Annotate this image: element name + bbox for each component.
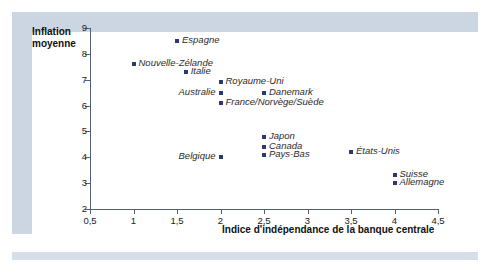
data-point [184, 70, 188, 74]
x-axis-tick [221, 209, 222, 214]
data-point-label: États-Unis [356, 145, 400, 156]
data-point [262, 135, 266, 139]
x-axis-tick [134, 209, 135, 214]
data-point-label: Pays-Bas [269, 148, 310, 159]
data-point [219, 155, 223, 159]
data-point [262, 153, 266, 157]
figure-bottom-bar [12, 252, 478, 260]
data-point-label: France/Norvège/Suède [226, 96, 324, 107]
y-axis-tick-label: 4 [47, 151, 87, 162]
y-axis-tick-label: 9 [47, 22, 87, 33]
data-point-label: Belgique [179, 150, 216, 161]
x-axis-tick-label: 3,5 [331, 215, 371, 226]
x-axis-tick-label: 1 [114, 215, 154, 226]
x-axis-tick [264, 209, 265, 214]
data-point [349, 150, 353, 154]
y-axis-tick-label: 3 [47, 177, 87, 188]
y-axis-tick-label: 2 [47, 203, 87, 214]
data-point [132, 62, 136, 66]
y-axis-title-line2: moyenne [32, 38, 76, 49]
data-point [219, 80, 223, 84]
data-point [393, 173, 397, 177]
data-point [262, 145, 266, 149]
data-point [175, 39, 179, 43]
data-point-label: Royaume-Uni [226, 75, 284, 86]
data-point-label: Japon [269, 130, 295, 141]
x-axis-tick [351, 209, 352, 214]
x-axis-tick [438, 209, 439, 214]
data-point [219, 101, 223, 105]
x-axis-tick-label: 4 [375, 215, 415, 226]
y-axis-line [90, 28, 91, 209]
x-axis-tick [308, 209, 309, 214]
y-axis-tick-label: 8 [47, 48, 87, 59]
x-axis-tick-label: 4,5 [418, 215, 458, 226]
plot-area: 234567890,511,522,533,544,5EspagneNouvel… [90, 28, 438, 209]
data-point-label: Australie [179, 86, 216, 97]
chart-figure: Inflation moyenne Indice d'indépendance … [0, 0, 490, 268]
data-point [219, 91, 223, 95]
data-point [393, 181, 397, 185]
x-axis-tick [177, 209, 178, 214]
data-point-label: Danemark [269, 86, 313, 97]
x-axis-tick-label: 2 [201, 215, 241, 226]
data-point-label: Italie [191, 65, 211, 76]
data-point [262, 91, 266, 95]
x-axis-tick-label: 2,5 [244, 215, 284, 226]
data-point-label: Espagne [182, 34, 220, 45]
y-axis-tick-label: 7 [47, 74, 87, 85]
x-axis-tick [90, 209, 91, 214]
x-axis-tick-label: 3 [288, 215, 328, 226]
x-axis-tick [395, 209, 396, 214]
x-axis-tick-label: 1,5 [157, 215, 197, 226]
y-axis-tick-label: 5 [47, 125, 87, 136]
x-axis-tick-label: 0,5 [70, 215, 110, 226]
y-axis-tick-label: 6 [47, 100, 87, 111]
data-point-label: Allemagne [400, 176, 445, 187]
